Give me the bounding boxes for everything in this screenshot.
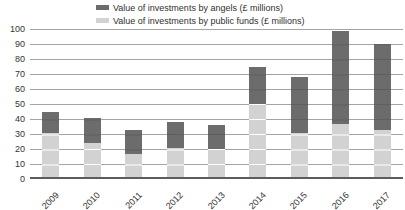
legend-key-angels-swatch-icon [96,5,109,10]
x-tick-label-2013: 2013 [205,190,226,210]
bar-gridline-stripes-light-2010 [84,143,101,179]
x-tick-label-2015: 2015 [288,190,309,210]
bar-gridline-stripes-light-2017 [374,130,391,180]
x-axis-line [30,177,403,179]
x-tick-label-2016: 2016 [330,190,351,210]
legend-key-public-funds-swatch-icon [96,18,109,23]
y-axis: 0102030405060708090100 [0,29,27,179]
x-tick-label-2014: 2014 [247,190,268,210]
y-tick-label-50: 50 [15,99,25,109]
y-tick-label-10: 10 [15,159,25,169]
plot-area [30,29,403,179]
legend-item-public-funds: Value of investments by public funds (£ … [96,14,304,27]
bar-gridline-stripes-light-2013 [208,149,225,179]
y-tick-label-60: 60 [15,84,25,94]
bar-gridline-stripes-light-2014 [249,104,266,179]
y-tick-label-0: 0 [20,174,25,184]
x-tick-label-2011: 2011 [123,190,144,210]
y-tick-label-90: 90 [15,39,25,49]
bar-gridline-stripes-light-2012 [167,148,184,180]
x-tick-label-2010: 2010 [81,190,102,210]
bar-gridline-stripes-light-2009 [42,133,59,180]
legend-item-angels: Value of investments by angels (£ millio… [96,1,304,14]
x-axis: 200920102011201220132014201520162017 [30,180,403,210]
y-tick-label-20: 20 [15,144,25,154]
x-tick-label-2012: 2012 [164,190,185,210]
x-tick-label-2017: 2017 [371,190,392,210]
y-tick-label-30: 30 [15,129,25,139]
y-tick-label-70: 70 [15,69,25,79]
bar-gridline-stripes-light-2015 [291,133,308,180]
stacked-bar-chart: Value of investments by angels (£ millio… [0,0,405,210]
legend-label-public-funds: Value of investments by public funds (£ … [113,16,304,26]
y-tick-label-40: 40 [15,114,25,124]
y-tick-label-100: 100 [10,24,25,34]
chart-legend: Value of investments by angels (£ millio… [96,1,304,27]
legend-label-angels: Value of investments by angels (£ millio… [113,3,283,13]
bar-gridline-stripes-light-2016 [332,124,349,180]
x-tick-label-2009: 2009 [40,190,61,210]
bar-gridline-stripes-light-2011 [125,154,142,180]
y-tick-label-80: 80 [15,54,25,64]
